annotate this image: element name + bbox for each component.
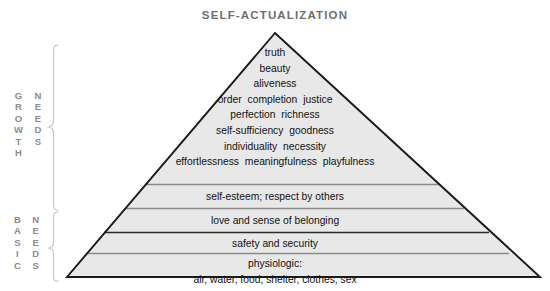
tier1-line-self-sufficiency: self-sufficiency goodness	[0, 123, 550, 139]
tier1-line-truth: truth	[0, 45, 550, 61]
tier-love-belonging-text: love and sense of belonging	[0, 213, 550, 229]
maslow-pyramid-figure: SELF-ACTUALIZATION G R O W T H N E	[0, 0, 550, 291]
tier1-line-aliveness: aliveness	[0, 76, 550, 92]
tier-esteem-text: self-esteem; respect by others	[0, 189, 550, 205]
tier5-line-physiologic: physiologic:	[0, 256, 550, 272]
tier1-line-perfection: perfection richness	[0, 107, 550, 123]
tier5-line-needs-list: air, water, food, shelter, clothes, sex	[0, 272, 550, 288]
tier3-line-love: love and sense of belonging	[0, 213, 550, 229]
tier1-line-order: order completion justice	[0, 92, 550, 108]
tier4-line-safety: safety and security	[0, 236, 550, 252]
tier-self-actualization-text: truth beauty aliveness order completion …	[0, 45, 550, 170]
tier1-line-individuality: individuality necessity	[0, 139, 550, 155]
tier-safety-text: safety and security	[0, 236, 550, 252]
tier-physiologic-text: physiologic: air, water, food, shelter, …	[0, 256, 550, 287]
tier1-line-effortlessness: effortlessness meaningfulness playfulnes…	[0, 154, 550, 170]
tier1-line-beauty: beauty	[0, 61, 550, 77]
tier2-line-self-esteem: self-esteem; respect by others	[0, 189, 550, 205]
